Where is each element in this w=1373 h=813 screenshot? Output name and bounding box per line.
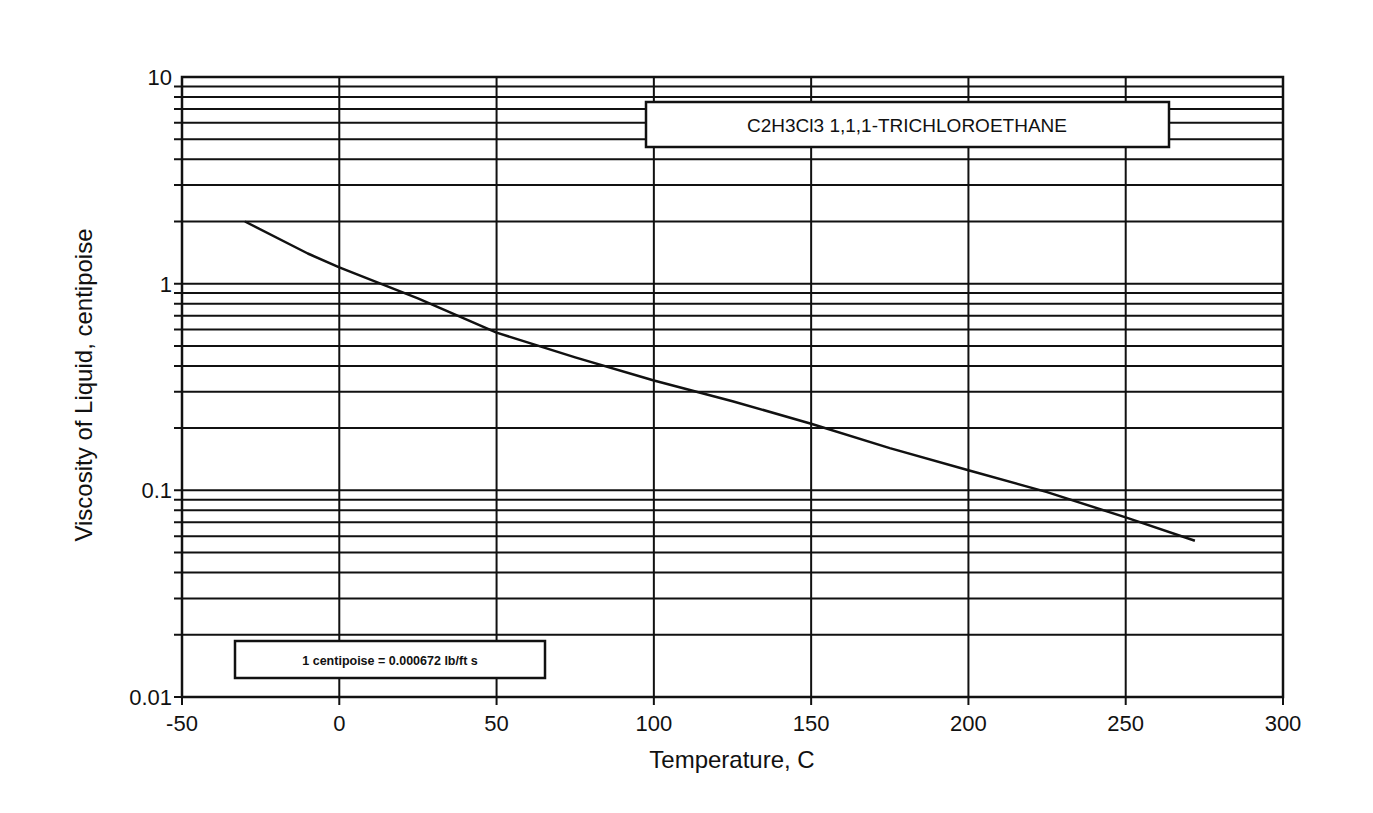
x-tick-label: 50 [484, 711, 508, 736]
conversion-note-box: 1 centipoise = 0.000672 lb/ft s [235, 641, 545, 678]
x-axis-title: Temperature, C [649, 746, 814, 773]
y-tick-label: 1 [160, 272, 172, 297]
y-tick-label: 0.1 [141, 478, 172, 503]
x-tick-label: 200 [950, 711, 987, 736]
compound-label: C2H3Cl3 1,1,1-TRICHLOROETHANE [747, 115, 1067, 136]
y-axis-title: Viscosity of Liquid, centipoise [70, 228, 97, 541]
viscosity-curve [245, 222, 1195, 541]
x-tick-label: 250 [1107, 711, 1144, 736]
y-tick-label: 0.01 [129, 685, 172, 710]
plot-area-frame [182, 77, 1283, 697]
x-tick-label: -50 [166, 711, 198, 736]
x-tick-label: 100 [635, 711, 672, 736]
chart: -50050100150200250300 0.010.1110 C2H3Cl3… [0, 0, 1373, 813]
x-tick-label: 0 [333, 711, 345, 736]
conversion-note: 1 centipoise = 0.000672 lb/ft s [302, 654, 477, 668]
y-tick-label: 10 [148, 65, 172, 90]
y-axis-ticks: 0.010.1110 [129, 65, 172, 710]
y-minor-gridlines [174, 86, 1283, 697]
x-tick-label: 300 [1265, 711, 1302, 736]
x-tick-label: 150 [793, 711, 830, 736]
compound-legend-box: C2H3Cl3 1,1,1-TRICHLOROETHANE [646, 102, 1169, 147]
x-axis-ticks: -50050100150200250300 [166, 711, 1301, 736]
